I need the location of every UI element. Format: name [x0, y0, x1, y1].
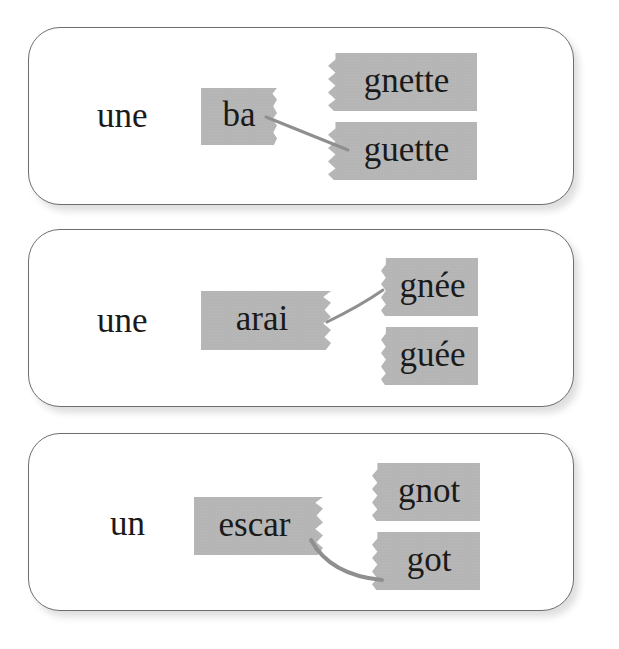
ending-tile[interactable]: guette [328, 122, 477, 180]
stem-text: ba [222, 97, 255, 132]
ending-text: got [407, 542, 452, 577]
ending-text: guette [364, 132, 450, 167]
stem-text: escar [219, 507, 291, 542]
stem-tile[interactable]: ba [201, 88, 277, 145]
ending-tile[interactable]: guée [381, 327, 478, 385]
article-label: une [97, 303, 148, 338]
stem-text: arai [236, 301, 288, 336]
ending-tile[interactable]: gnette [328, 53, 477, 111]
article-label: un [110, 506, 145, 541]
ending-text: gnée [399, 268, 465, 303]
ending-tile[interactable]: gnot [372, 463, 480, 521]
article-label: une [97, 98, 148, 133]
stem-tile[interactable]: arai [201, 291, 331, 350]
ending-tile[interactable]: gnée [381, 258, 478, 316]
ending-text: gnette [364, 63, 450, 98]
ending-tile[interactable]: got [372, 532, 480, 590]
ending-text: guée [399, 337, 465, 372]
stem-tile[interactable]: escar [194, 497, 323, 555]
ending-text: gnot [398, 473, 460, 508]
